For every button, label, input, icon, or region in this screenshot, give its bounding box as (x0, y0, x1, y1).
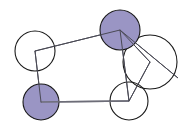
graph-canvas (0, 0, 192, 130)
edge-n4-n5-over (41, 101, 129, 102)
graph-diagram-figure (0, 0, 192, 130)
vertex-mark-n1 (34, 50, 35, 51)
vertex-mark-n5 (128, 100, 129, 101)
vertex-mark-n4 (40, 101, 41, 102)
vertex-mark-n3 (149, 61, 150, 62)
vertex-mark-n2 (119, 29, 120, 30)
